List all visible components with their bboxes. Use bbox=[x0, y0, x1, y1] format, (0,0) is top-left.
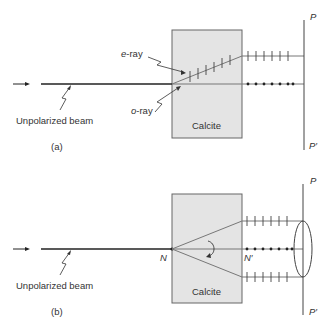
crystal-label-a: Calcite bbox=[192, 120, 221, 131]
screen-bottom-label-b: P′ bbox=[309, 306, 317, 317]
point-n-label: N bbox=[160, 252, 167, 263]
arrow-head-icon bbox=[25, 82, 30, 86]
beam-label-b: Unpolarized beam bbox=[16, 280, 93, 291]
screen-top-label-b: P bbox=[310, 175, 316, 186]
o-ray-label: o-ray bbox=[131, 105, 153, 116]
e-ray-label: e-ray bbox=[121, 48, 143, 59]
beam-pointer-b bbox=[60, 252, 70, 275]
panel-a bbox=[13, 20, 304, 150]
screen-bottom-label-a: P′ bbox=[309, 140, 317, 151]
beam-pointer-a bbox=[60, 87, 70, 110]
caption-b: (b) bbox=[51, 306, 63, 317]
panel-b bbox=[13, 184, 312, 315]
point-n-prime-label: N′ bbox=[244, 252, 253, 263]
crystal-label-b: Calcite bbox=[192, 286, 221, 297]
beam-label-a: Unpolarized beam bbox=[16, 115, 93, 126]
birefringence-diagram bbox=[0, 0, 333, 327]
screen-top-label-a: P bbox=[310, 11, 316, 22]
caption-a: (a) bbox=[51, 141, 63, 152]
arrow-head-icon bbox=[25, 247, 30, 251]
